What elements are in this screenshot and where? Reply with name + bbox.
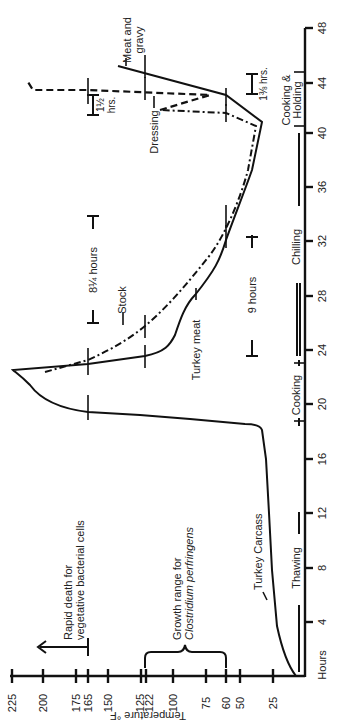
interval-13-8-label: 1⅜ hrs.: [258, 67, 269, 100]
rapid-death-annotation: Rapid death for vegetative bacterial cel…: [38, 520, 88, 656]
temperature-time-chart: 225 200 175 165 150 125 122 100 75 60 50…: [0, 0, 338, 722]
temp-tick-50: 50: [234, 697, 246, 709]
temp-tick-60: 60: [220, 697, 232, 709]
hour-tick-8: 8: [316, 565, 328, 571]
temp-tick-200: 200: [37, 694, 49, 712]
hours-axis-label: Hours: [316, 650, 328, 680]
hour-tick-48: 48: [316, 22, 328, 34]
growth-range-label-1: Growth range for: [171, 557, 183, 640]
hour-tick-24: 24: [316, 344, 328, 356]
phase-cooking: Cooking: [290, 375, 302, 415]
rapid-death-label-1: Rapid death for: [62, 564, 74, 640]
turkey-carcass-label: Turkey Carcass: [252, 513, 264, 590]
hour-tick-28: 28: [316, 290, 328, 302]
meat-gravy-label-2: gravy: [133, 26, 145, 53]
hour-tick-4: 4: [316, 619, 328, 625]
hour-tick-44: 44: [316, 77, 328, 89]
phase-thawing: Thawing: [290, 547, 302, 589]
growth-range-brace: Growth range for Clostridium perfringens: [145, 526, 226, 668]
temp-tick-175: 175: [70, 694, 82, 712]
hours-axis: 4 8 12 16 20 24 28 32 36 40 44 48 Hours: [305, 22, 328, 680]
interval-1h-label-1: 1½: [95, 97, 106, 112]
interval-1h-label-2: hrs.: [106, 97, 117, 114]
turkey-meat-label: Turkey meat: [190, 320, 202, 381]
temp-tick-150: 150: [102, 694, 114, 712]
hour-tick-36: 36: [316, 181, 328, 193]
phase-cooking-holding-2: Holding: [291, 81, 303, 118]
stock-label: Stock: [116, 286, 128, 314]
hour-tick-40: 40: [316, 127, 328, 139]
curve-labels: Turkey Carcass Turkey meat Stock Dressin…: [116, 17, 267, 600]
hour-tick-16: 16: [316, 453, 328, 465]
growth-range-label-2: Clostridium perfringens: [183, 526, 195, 640]
hour-tick-20: 20: [316, 398, 328, 410]
temp-tick-25: 25: [267, 697, 279, 709]
hour-tick-12: 12: [316, 507, 328, 519]
temp-tick-100: 100: [167, 694, 179, 712]
dressing-curve: [28, 82, 210, 110]
temperature-axis-label: Temperature °F: [110, 710, 186, 722]
temp-tick-225: 225: [6, 694, 18, 712]
temperature-axis: 225 200 175 165 150 125 122 100 75 60 50…: [6, 669, 305, 722]
temp-tick-75: 75: [200, 697, 212, 709]
meat-gravy-label-1: Meat and: [121, 17, 133, 63]
phase-chilling: Chilling: [290, 229, 302, 265]
temp-tick-165: 165: [82, 694, 94, 712]
hour-tick-32: 32: [316, 235, 328, 247]
rapid-death-label-2: vegetative bacterial cells: [74, 520, 86, 640]
temp-tick-122: 122: [143, 694, 155, 712]
interval-8q-hours: 8¼ hours: [87, 247, 99, 293]
interval-9-hours: 9 hours: [246, 276, 258, 313]
phase-bars: Thawing Cooking Chilling Cooking & Holdi…: [280, 72, 304, 672]
dressing-label: Dressing: [148, 110, 160, 153]
